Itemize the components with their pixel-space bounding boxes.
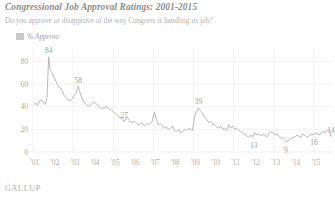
- plot-area: 020406080 '01'02'03'04'05'06'07'08'09'10…: [0, 44, 335, 174]
- x-axis-tick-label: '04: [91, 159, 100, 167]
- line-chart-svg: 020406080 '01'02'03'04'05'06'07'08'09'10…: [0, 44, 335, 174]
- legend-swatch-approve: [16, 33, 24, 40]
- x-axis-tick-label: '10: [211, 159, 220, 167]
- x-axis-tick-label: '01: [31, 159, 40, 167]
- chart-card: Congressional Job Approval Ratings: 2001…: [0, 0, 335, 206]
- chart-subtitle: Do you approve or disapprove of the way …: [5, 16, 213, 25]
- y-axis-ticks: 020406080: [20, 57, 28, 157]
- x-axis-tick-label: '11: [232, 159, 241, 167]
- x-axis-tick-label: '09: [191, 159, 200, 167]
- x-axis-tick-label: '15: [312, 159, 321, 167]
- data-point-label: 84: [45, 46, 53, 55]
- gallup-logo: GALLUP: [5, 184, 41, 193]
- data-point-label: 9: [284, 146, 288, 155]
- page-title: Congressional Job Approval Ratings: 2001…: [5, 2, 197, 12]
- x-axis-tick-label: '07: [151, 159, 160, 167]
- x-axis-tick-label: '06: [131, 159, 140, 167]
- x-axis-tick-label: '05: [111, 159, 120, 167]
- data-point-label: 58: [74, 76, 82, 85]
- chart-gridlines: [33, 48, 332, 152]
- data-point-label: 16: [310, 138, 318, 147]
- footer-note: [8, 199, 326, 205]
- x-axis-ticks: '01'02'03'04'05'06'07'08'09'10'11'12'13'…: [31, 159, 321, 167]
- x-axis-tick-label: '14: [292, 159, 301, 167]
- data-point-label: 13: [250, 141, 258, 150]
- y-axis-tick-label: 60: [20, 80, 28, 89]
- y-axis-tick-label: 80: [20, 57, 28, 66]
- y-axis-tick-label: 20: [20, 125, 28, 134]
- data-point-label: 14: [327, 126, 335, 135]
- x-axis-tick-label: '03: [71, 159, 80, 167]
- legend-label-approve: % Approve: [27, 32, 60, 41]
- x-axis-tick-label: '08: [171, 159, 180, 167]
- x-axis-tick-label: '02: [51, 159, 60, 167]
- chart-legend: % Approve: [16, 32, 60, 41]
- y-axis-tick-label: 40: [20, 102, 28, 111]
- x-axis-tick-label: '12: [251, 159, 260, 167]
- data-point-label: 27: [121, 111, 129, 120]
- x-axis-tick-label: '13: [272, 159, 281, 167]
- data-point-label: 39: [195, 97, 203, 106]
- y-axis-tick-label: 0: [24, 148, 28, 157]
